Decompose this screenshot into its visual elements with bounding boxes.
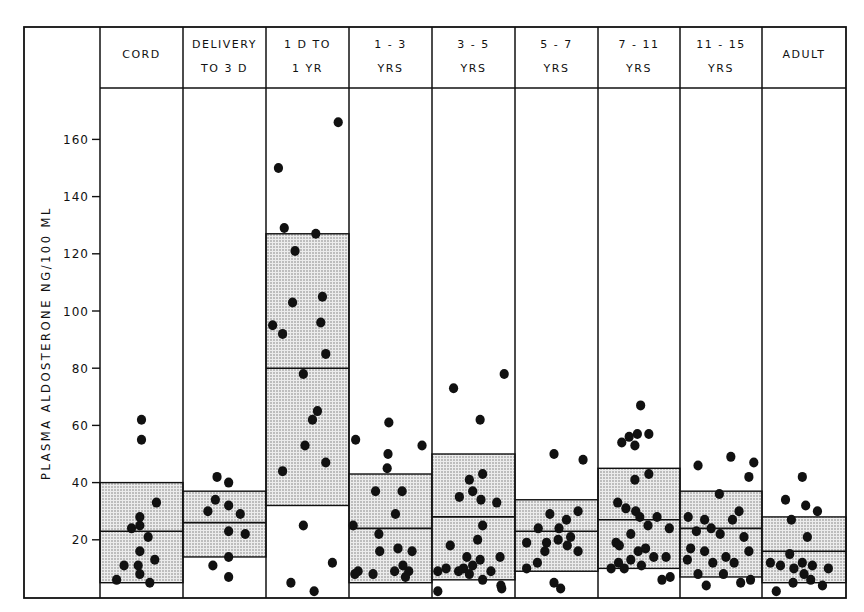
data-point: [708, 558, 717, 568]
data-point: [500, 369, 509, 379]
data-point: [318, 292, 327, 302]
data-point: [772, 586, 781, 596]
data-point: [300, 440, 309, 450]
data-point: [478, 575, 487, 585]
data-point: [785, 549, 794, 559]
data-point: [657, 575, 666, 585]
data-point: [371, 486, 380, 496]
data-point: [384, 418, 393, 428]
data-point: [746, 575, 755, 585]
data-point: [666, 572, 675, 582]
data-point: [734, 506, 743, 516]
data-point: [626, 555, 635, 565]
data-point: [473, 535, 482, 545]
data-point: [649, 552, 658, 562]
y-tick-label: 120: [63, 247, 89, 261]
data-point: [788, 578, 797, 588]
data-point: [545, 509, 554, 519]
y-tick-label: 20: [72, 533, 89, 547]
data-point: [702, 581, 711, 591]
data-point: [127, 523, 136, 533]
column-headers: CORDDELIVERYTO 3 D1 D TO1 YR1 - 3YRS3 - …: [122, 38, 825, 75]
data-point: [497, 583, 506, 593]
data-point: [563, 541, 572, 551]
data-point: [492, 498, 501, 508]
data-point: [278, 466, 287, 476]
data-point: [308, 415, 317, 425]
data-point: [789, 563, 798, 573]
data-point: [316, 317, 325, 327]
data-point: [374, 529, 383, 539]
data-point: [692, 526, 701, 536]
data-point: [566, 532, 575, 542]
data-point: [533, 558, 542, 568]
data-point: [150, 555, 159, 565]
data-point: [562, 515, 571, 525]
data-point: [476, 415, 485, 425]
data-point: [241, 529, 250, 539]
aldosterone-chart: CORDDELIVERYTO 3 D1 D TO1 YR1 - 3YRS3 - …: [0, 0, 864, 612]
column-header-line2: 1 YR: [292, 62, 323, 75]
data-point: [268, 320, 277, 330]
data-point: [224, 478, 233, 488]
column-header-line1: 1 D TO: [284, 38, 331, 51]
data-point: [134, 561, 143, 571]
range-band: [183, 491, 266, 557]
data-point: [135, 512, 144, 522]
data-point: [824, 563, 833, 573]
data-point: [744, 546, 753, 556]
data-point: [334, 117, 343, 127]
data-point: [135, 569, 144, 579]
column-header-line2: YRS: [543, 62, 570, 75]
data-point: [744, 472, 753, 482]
data-point: [137, 415, 146, 425]
data-point: [798, 558, 807, 568]
data-point: [607, 563, 616, 573]
data-point: [693, 460, 702, 470]
data-point: [787, 515, 796, 525]
data-point: [398, 486, 407, 496]
data-point: [781, 495, 790, 505]
data-point: [621, 503, 630, 513]
y-tick-label: 40: [72, 476, 89, 490]
data-point: [776, 561, 785, 571]
data-point: [468, 561, 477, 571]
data-point: [278, 329, 287, 339]
data-point: [433, 566, 442, 576]
y-tick-label: 140: [63, 190, 89, 204]
data-point: [137, 435, 146, 445]
data-point: [290, 246, 299, 256]
column-header-line1: 11 - 15: [696, 38, 745, 51]
column-header-line2: YRS: [460, 62, 487, 75]
data-point: [626, 529, 635, 539]
data-point: [311, 229, 320, 239]
data-point: [368, 569, 377, 579]
data-point: [310, 586, 319, 596]
data-point: [684, 512, 693, 522]
data-point: [644, 429, 653, 439]
data-point: [554, 523, 563, 533]
data-point: [630, 440, 639, 450]
data-point: [683, 555, 692, 565]
data-point: [643, 521, 652, 531]
data-point: [212, 472, 221, 482]
y-tick-label: 100: [63, 305, 89, 319]
data-point: [715, 489, 724, 499]
data-point: [730, 558, 739, 568]
data-point: [145, 578, 154, 588]
data-point: [401, 572, 410, 582]
data-point: [350, 569, 359, 579]
data-point: [686, 543, 695, 553]
column-header-line1: 7 - 11: [619, 38, 660, 51]
y-tick-label: 80: [72, 362, 89, 376]
data-point: [728, 515, 737, 525]
data-point: [534, 523, 543, 533]
data-point: [321, 458, 330, 468]
data-point: [383, 463, 392, 473]
data-point: [321, 349, 330, 359]
data-point: [349, 521, 358, 531]
data-point: [391, 509, 400, 519]
data-point: [224, 500, 233, 510]
data-point: [224, 526, 233, 536]
data-point: [407, 546, 416, 556]
